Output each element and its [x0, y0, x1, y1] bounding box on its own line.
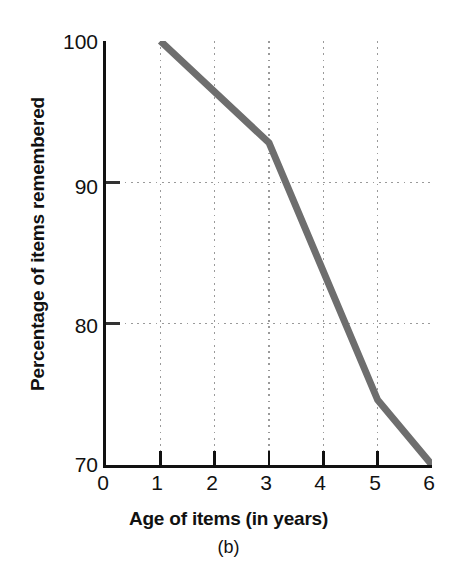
x-tick-label-1: 1 — [137, 472, 177, 493]
x-axis-tick-labels: 0 1 2 3 4 5 6 — [0, 472, 457, 506]
y-tick-label-80: 80 — [44, 315, 98, 336]
plot-area — [103, 41, 432, 468]
chart-figure: Percentage of items remembered 100 90 80… — [0, 0, 457, 585]
x-tick-label-2: 2 — [192, 472, 232, 493]
data-series-line — [160, 41, 432, 465]
y-tick-label-100: 100 — [44, 31, 98, 52]
vertical-gridlines — [160, 41, 377, 465]
x-tick-label-4: 4 — [300, 472, 340, 493]
x-axis-title: Age of items (in years) — [0, 508, 457, 530]
x-tick-label-3: 3 — [246, 472, 286, 493]
y-tick-label-90: 90 — [44, 176, 98, 197]
panel-caption: (b) — [0, 537, 457, 558]
x-tick-label-6: 6 — [409, 472, 449, 493]
x-axis-ticks — [160, 451, 377, 465]
x-tick-label-5: 5 — [355, 472, 395, 493]
y-axis-ticks — [106, 182, 120, 323]
x-tick-label-0: 0 — [83, 472, 123, 493]
plot-canvas — [106, 41, 432, 465]
